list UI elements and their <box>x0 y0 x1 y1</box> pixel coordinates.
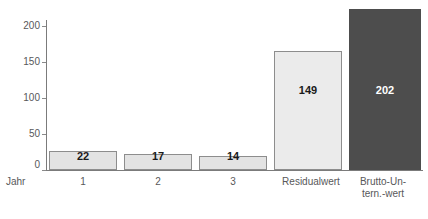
y-tick-label-0: 0 <box>2 160 40 170</box>
category-label-3-line1: 3 <box>199 176 267 188</box>
bar-jahr-1[interactable]: 22 <box>49 151 117 170</box>
plot-area: 22 17 14 149 202 <box>47 6 424 170</box>
bar-value-residualwert: 149 <box>275 85 341 96</box>
bar-value-jahr-3: 14 <box>200 151 266 162</box>
bar-jahr-3[interactable]: 14 <box>199 156 267 170</box>
category-label-2: 2 <box>124 176 192 188</box>
category-label-brutto-line2: tern.-wert <box>345 188 421 200</box>
y-tick-label-100: 100 <box>2 93 40 103</box>
x-axis-line <box>46 170 423 171</box>
bar-value-jahr-1: 22 <box>50 151 116 162</box>
y-tick-200: 200 <box>0 21 40 31</box>
axis-row-title-jahr: Jahr <box>6 176 25 188</box>
y-tick-label-150: 150 <box>2 57 40 67</box>
bar-brutto-unternehmenswert[interactable]: 202 <box>349 9 421 170</box>
category-label-residualwert: Residualwert <box>266 176 356 188</box>
bar-jahr-2[interactable]: 17 <box>124 154 192 170</box>
bar-value-jahr-2: 17 <box>125 151 191 162</box>
category-label-brutto-line1: Brutto-Un- <box>345 176 421 188</box>
category-label-1: 1 <box>49 176 117 188</box>
y-tick-label-200: 200 <box>2 21 40 31</box>
y-tick-50: 50 <box>0 129 40 139</box>
category-label-3: 3 <box>199 176 267 188</box>
category-label-brutto-unternehmenswert: Brutto-Un- tern.-wert <box>345 176 421 200</box>
bar-value-brutto-unternehmenswert: 202 <box>350 85 420 96</box>
y-tick-100: 100 <box>0 93 40 103</box>
y-tick-150: 150 <box>0 57 40 67</box>
category-label-2-line1: 2 <box>124 176 192 188</box>
y-tick-0: 0 <box>0 160 40 170</box>
category-label-residualwert-line1: Residualwert <box>266 176 356 188</box>
category-label-1-line1: 1 <box>49 176 117 188</box>
bar-residualwert[interactable]: 149 <box>274 51 342 170</box>
y-tick-label-50: 50 <box>2 129 40 139</box>
bar-chart: 200 150 100 50 0 22 17 14 149 202 <box>0 0 428 219</box>
